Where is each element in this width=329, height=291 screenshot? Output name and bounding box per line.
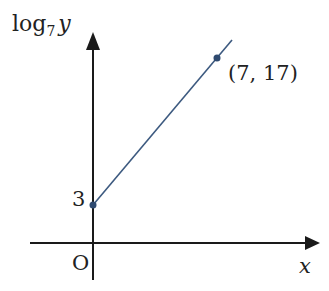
y-axis-label: log7y xyxy=(12,11,71,39)
intercept-label: 3 xyxy=(72,187,85,211)
origin-label: O xyxy=(72,251,89,275)
regression-line xyxy=(93,40,232,205)
point-label: (7, 17) xyxy=(228,61,298,85)
graph: log7y (7, 17) 3 O x xyxy=(0,0,329,291)
x-axis-arrow-icon xyxy=(305,236,320,250)
data-point xyxy=(214,55,221,62)
y-axis-arrow-icon xyxy=(86,32,100,50)
intercept-point xyxy=(90,202,97,209)
x-axis-label: x xyxy=(299,254,311,278)
